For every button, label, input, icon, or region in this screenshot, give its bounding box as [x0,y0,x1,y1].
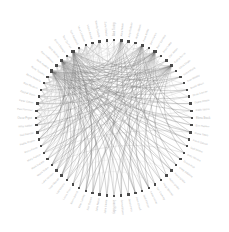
network-node[interactable] [191,117,193,119]
network-node[interactable] [36,102,38,104]
network-node[interactable] [46,158,48,160]
network-node[interactable] [98,193,100,195]
network-node[interactable] [66,55,68,57]
network-node[interactable] [165,174,167,176]
network-node[interactable] [55,169,57,171]
network-node[interactable] [179,76,181,78]
network-node[interactable] [113,39,115,41]
network-node[interactable] [85,44,87,46]
network-node[interactable] [71,50,74,53]
network-node[interactable] [170,169,172,171]
network-node[interactable] [120,39,123,42]
network-node[interactable] [43,152,45,154]
network-node[interactable] [127,40,129,42]
network-node[interactable] [78,187,80,189]
network-node[interactable] [106,194,108,196]
network-node[interactable] [153,50,156,53]
network-node[interactable] [60,174,62,176]
network-node[interactable] [46,76,48,78]
network-node[interactable] [50,69,53,72]
network-node[interactable] [186,89,188,91]
node-label: Alan Turing [112,22,116,36]
node-label: Oscar Pryce [18,116,33,120]
node-label: Joan Ridley [112,200,116,214]
network-node[interactable] [148,47,150,49]
network-node[interactable] [141,44,144,47]
network-node[interactable] [189,131,191,133]
network-node[interactable] [148,187,150,189]
network-node[interactable] [154,183,156,185]
network-node[interactable] [38,138,40,140]
network-node[interactable] [66,179,68,181]
network-node[interactable] [113,195,115,197]
chord-diagram-canvas: Alan TuringAlice NolanAmy RobsonAndre Ma… [0,0,229,232]
network-node[interactable] [35,110,37,112]
network-node[interactable] [38,95,40,97]
network-node[interactable] [98,40,100,42]
network-node[interactable] [183,82,185,84]
network-node[interactable] [134,192,136,194]
network-node[interactable] [186,145,188,147]
network-node[interactable] [188,138,190,140]
network-node[interactable] [91,192,93,194]
network-node[interactable] [106,39,108,41]
network-node[interactable] [183,152,185,154]
network-node[interactable] [189,102,191,104]
network-node[interactable] [127,193,129,195]
network-node[interactable] [43,82,45,84]
network-node[interactable] [190,110,192,112]
network-node[interactable] [35,124,37,126]
network-node[interactable] [160,179,162,181]
network-node[interactable] [134,42,136,44]
node-label: Elena Brask [196,116,211,120]
network-node[interactable] [78,47,80,49]
network-node[interactable] [91,42,93,44]
network-node[interactable] [72,183,74,185]
network-node[interactable] [40,145,42,147]
network-node[interactable] [165,59,167,61]
network-node[interactable] [179,158,181,160]
network-node[interactable] [36,131,38,133]
network-node[interactable] [190,124,192,126]
network-node[interactable] [55,64,57,66]
network-node[interactable] [40,89,42,91]
network-node[interactable] [188,95,190,97]
network-node[interactable] [35,117,37,119]
network-node[interactable] [51,164,53,166]
network-node[interactable] [170,64,173,67]
network-node[interactable] [60,59,63,62]
network-node[interactable] [120,194,122,196]
circular-network-figure: Alan TuringAlice NolanAmy RobsonAndre Ma… [0,0,229,232]
network-node[interactable] [160,55,162,57]
network-node[interactable] [175,70,177,72]
network-node[interactable] [85,190,87,192]
network-node[interactable] [175,164,177,166]
network-node[interactable] [141,190,143,192]
